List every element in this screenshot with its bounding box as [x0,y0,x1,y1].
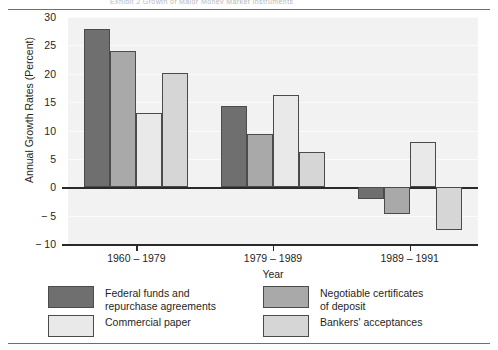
bar [384,187,410,214]
legend-label: Commercial paper [105,315,191,329]
legend-item[interactable]: Commercial paper [48,315,191,337]
bar [110,51,136,187]
plot-wrapper [68,17,478,244]
legend-item[interactable]: Negotiable certificates of deposit [263,286,423,312]
bar [84,29,110,187]
clipped-exhibit-title: Exhibit 2 Growth of Major Money Market I… [110,0,370,4]
y-axis-tick-label: 30 [44,11,56,23]
zero-axis-line [62,187,478,189]
gridline [68,17,478,18]
legend-swatch [263,315,309,337]
legend-label: Bankers' acceptances [320,315,422,329]
x-axis-tick-label: 1989 – 1991 [380,252,438,264]
plot-area [68,17,478,244]
bar [273,95,299,187]
x-axis-tick [136,244,137,251]
y-axis-tick-label: 0 [50,181,56,193]
bar [136,113,162,187]
bar [410,142,436,187]
bottom-divider [8,343,490,344]
bar [221,106,247,187]
bar [358,187,384,198]
chart-figure: Exhibit 2 Growth of Major Money Market I… [0,0,498,350]
y-axis-tick-label: 20 [44,68,56,80]
y-axis-tick-label: 5 [50,153,56,165]
bar [247,134,273,187]
legend-item[interactable]: Federal funds and repurchase agreements [48,286,216,312]
x-axis-tick-labels: 1960 – 19791979 – 19891989 – 1991 [68,252,478,268]
x-axis-line [62,244,478,246]
legend-label: Federal funds and repurchase agreements [105,286,216,312]
legend-swatch [48,286,94,308]
bar [299,152,325,187]
gridline [68,45,478,46]
x-axis-tick-label: 1960 – 1979 [107,252,165,264]
x-axis-tick [410,244,411,251]
y-axis-tick-labels: 302520151050− 5− 10 [0,17,62,244]
chart-legend: Federal funds and repurchase agreementsN… [48,286,488,338]
gridline [68,216,478,217]
y-axis-tick-label: 25 [44,39,56,51]
bar [162,73,188,188]
bar [436,187,462,230]
x-axis-tick [273,244,274,251]
y-axis-tick-label: − 5 [41,210,56,222]
legend-swatch [48,315,94,337]
legend-swatch [263,286,309,308]
y-axis-tick-label: 10 [44,125,56,137]
y-axis-tick-label: − 10 [35,238,56,250]
legend-item[interactable]: Bankers' acceptances [263,315,422,337]
x-axis-title: Year [68,268,478,280]
x-axis-tick-label: 1979 – 1989 [244,252,302,264]
y-axis-tick-label: 15 [44,96,56,108]
top-divider [8,9,490,10]
legend-label: Negotiable certificates of deposit [320,286,423,312]
